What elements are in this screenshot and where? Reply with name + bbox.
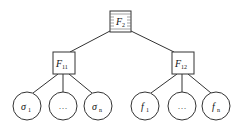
edge-f11-sigma1 xyxy=(33,74,58,93)
leaf-sigman-subscript: n xyxy=(99,107,102,113)
leaf-fn: f n xyxy=(202,92,230,120)
leaf-sigman: σ n xyxy=(84,92,112,120)
leaf-dots-left-label: … xyxy=(59,101,68,111)
edge-f12-fn xyxy=(188,74,211,93)
node-f12-subscript: 12 xyxy=(181,64,187,70)
leaf-fn-subscript: n xyxy=(217,107,220,113)
edge-f2-f11 xyxy=(70,31,110,52)
edge-f2-f12 xyxy=(131,31,174,52)
node-f11: F 11 xyxy=(53,52,75,74)
leaf-sigma1-subscript: 1 xyxy=(28,107,31,113)
edge-f12-f1 xyxy=(151,74,177,93)
leaf-sigma1: σ 1 xyxy=(13,92,41,120)
leaf-f1: f 1 xyxy=(131,92,159,120)
tree-diagram: F 2 F 11 F 12 σ 1 … σ n f 1 … f n xyxy=(0,0,243,128)
leaf-f1-subscript: 1 xyxy=(146,107,149,113)
node-f11-subscript: 11 xyxy=(62,64,68,70)
node-f2: F 2 xyxy=(110,11,131,32)
node-f2-subscript: 2 xyxy=(122,22,125,28)
leaf-dots-left: … xyxy=(49,92,77,120)
edge-f11-sigman xyxy=(69,74,92,93)
leaf-dots-right: … xyxy=(168,92,196,120)
node-f12: F 12 xyxy=(172,52,194,74)
leaf-dots-right-label: … xyxy=(178,101,187,111)
